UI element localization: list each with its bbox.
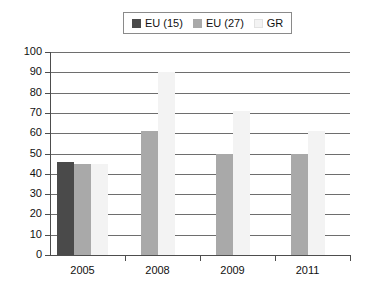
y-axis-tick-label: 100	[16, 46, 42, 57]
x-axis-tick-label: 2009	[220, 264, 244, 276]
bar	[216, 154, 233, 256]
x-axis-tick	[200, 256, 201, 261]
y-axis-tick-label: 10	[16, 229, 42, 240]
x-axis-tick-label: 2011	[296, 264, 320, 276]
bar	[141, 131, 158, 255]
x-axis-tick	[350, 256, 351, 261]
y-axis-tick-label: 20	[16, 208, 42, 219]
y-axis-tick	[45, 174, 50, 175]
bar-chart: EU (15) EU (27) GR 010203040506070809010…	[0, 0, 366, 289]
x-axis-tick-label: 2005	[70, 264, 94, 276]
bar-groups	[50, 52, 350, 255]
bar	[308, 131, 325, 255]
plot-area	[50, 52, 350, 255]
y-axis-tick	[45, 255, 50, 256]
y-axis-tick-label: 70	[16, 107, 42, 118]
y-axis-tick	[45, 214, 50, 215]
y-axis-tick	[45, 113, 50, 114]
bar	[233, 111, 250, 255]
bar	[91, 164, 108, 255]
legend-item-label: EU (27)	[206, 18, 244, 29]
legend-item-label: EU (15)	[145, 18, 183, 29]
legend-item-label: GR	[267, 18, 284, 29]
y-axis-line	[50, 52, 51, 256]
y-axis-tick	[45, 235, 50, 236]
y-axis-tick-label: 80	[16, 87, 42, 98]
y-axis-tick	[45, 93, 50, 94]
bar	[158, 72, 175, 255]
y-axis-tick-label: 40	[16, 168, 42, 179]
y-axis-tick	[45, 194, 50, 195]
y-axis-tick	[45, 52, 50, 53]
legend-swatch-icon	[132, 19, 141, 28]
y-axis-tick	[45, 72, 50, 73]
y-axis-tick-label: 90	[16, 66, 42, 77]
y-axis-tick-label: 60	[16, 127, 42, 138]
bar	[74, 164, 91, 255]
y-axis-tick-label: 50	[16, 148, 42, 159]
legend-item-eu15: EU (15)	[132, 18, 183, 29]
x-axis-tick-label: 2008	[145, 264, 169, 276]
y-axis-tick	[45, 154, 50, 155]
y-axis-tick-label: 30	[16, 188, 42, 199]
legend-swatch-icon	[254, 19, 263, 28]
x-axis-tick	[275, 256, 276, 261]
y-axis-tick	[45, 133, 50, 134]
legend-swatch-icon	[193, 19, 202, 28]
legend-item-gr: GR	[254, 18, 284, 29]
y-axis-tick-label: 0	[16, 249, 42, 260]
x-axis-tick	[125, 256, 126, 261]
bar	[291, 154, 308, 256]
chart-legend: EU (15) EU (27) GR	[123, 12, 292, 34]
legend-item-eu27: EU (27)	[193, 18, 244, 29]
y-axis-labels: 0102030405060708090100	[10, 0, 42, 289]
bar	[57, 162, 74, 255]
